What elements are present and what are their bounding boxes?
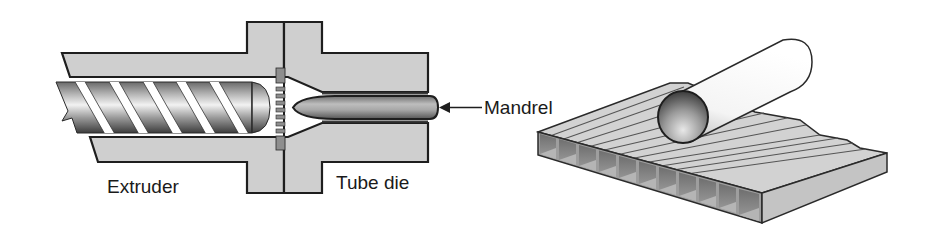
extruder-screw bbox=[56, 80, 270, 136]
diagram-figure: Extruder Tube die Mandrel bbox=[0, 0, 933, 234]
barrel-upper-wall bbox=[62, 22, 284, 77]
tube-die-label: Tube die bbox=[336, 172, 409, 193]
mandrel-pointer-arrow bbox=[439, 102, 482, 113]
mandrel-label: Mandrel bbox=[484, 97, 553, 118]
die-body-upper bbox=[284, 22, 428, 92]
cell bbox=[679, 173, 696, 202]
roller-end-face bbox=[658, 91, 708, 143]
twin-wall-sheet-illustration bbox=[538, 39, 887, 223]
extruder-label: Extruder bbox=[107, 176, 179, 197]
screw-tip bbox=[252, 82, 270, 133]
mandrel bbox=[293, 96, 438, 119]
cell bbox=[719, 184, 736, 214]
cell bbox=[699, 178, 716, 207]
breaker-plate bbox=[276, 68, 285, 150]
extruder-assembly: Extruder Tube die Mandrel bbox=[56, 22, 553, 197]
